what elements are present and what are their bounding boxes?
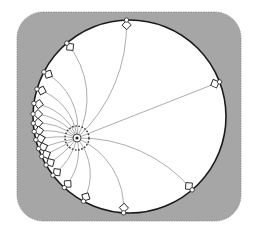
ideal-point-dot [31,112,35,116]
ideal-point-dot [39,154,43,158]
diagram-canvas: Poincaré disk geodesics from a focal poi… [0,0,255,233]
ideal-point-dot [62,185,66,189]
ideal-point-dot [34,138,38,142]
focus-dot [75,136,78,139]
ideal-point-dot [124,18,128,22]
ideal-point-dot [65,41,69,45]
ideal-point-dot [32,101,36,105]
ideal-point-dot [36,147,40,151]
ideal-point-dot [35,87,39,91]
ideal-point-dot [121,211,125,215]
ideal-point-dot [81,199,85,203]
ideal-point-dot [190,188,194,192]
ideal-point-dot [32,129,36,133]
ideal-point-dot [44,163,48,167]
ideal-point-dot [217,80,221,84]
ideal-point-dot [51,173,55,177]
poincare-disk-diagram: Poincaré disk geodesics from a focal poi… [0,0,255,233]
ideal-point-dot [31,121,35,125]
ideal-point-dot [42,70,46,74]
